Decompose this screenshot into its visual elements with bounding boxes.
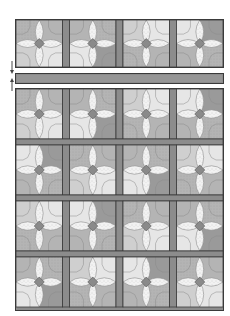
top-block-row [15, 19, 224, 68]
assembled-quilt [15, 88, 224, 311]
sashing-strip [15, 73, 224, 84]
